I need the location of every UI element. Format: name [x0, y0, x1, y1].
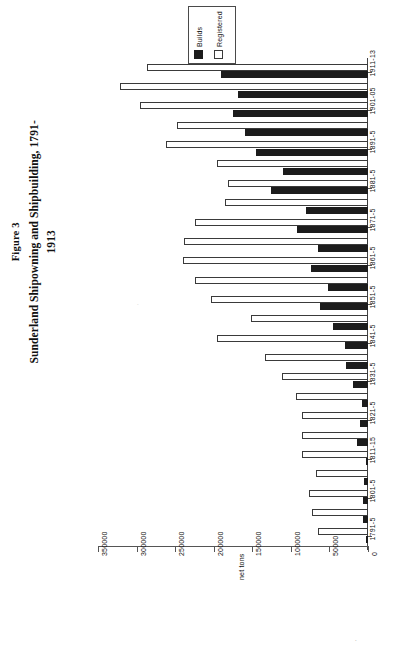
- page-speck: .: [355, 636, 357, 642]
- value-tick-label: 300000: [140, 531, 147, 556]
- value-tick-label: 350000: [101, 531, 108, 556]
- bar-group: 1891-5: [98, 139, 368, 158]
- value-tick-label: 50000: [332, 536, 339, 556]
- figure-title-block: Figure 3 Sunderland Shipowning and Shipb…: [8, 112, 60, 372]
- bar-registered[interactable]: [316, 470, 368, 477]
- bar-group: 1841-5: [98, 333, 368, 352]
- bar-group: [98, 507, 368, 526]
- value-tick: [214, 546, 215, 552]
- bar-builds[interactable]: [256, 149, 368, 156]
- legend-item-registered[interactable]: Registered: [212, 11, 232, 59]
- value-tick: [291, 546, 292, 552]
- bar-registered[interactable]: [147, 64, 368, 71]
- bar-registered[interactable]: [217, 335, 368, 342]
- bar-group: [98, 81, 368, 100]
- category-label: 1911-13: [369, 12, 376, 76]
- value-tick-label: 200000: [217, 531, 224, 556]
- bar-builds[interactable]: [363, 516, 368, 523]
- bar-group: 1911-13: [98, 62, 368, 81]
- bar-builds[interactable]: [320, 303, 368, 310]
- bar-group: [98, 275, 368, 294]
- bar-group: [98, 120, 368, 139]
- bar-builds[interactable]: [221, 71, 368, 78]
- bar-registered[interactable]: [195, 277, 368, 284]
- bar-group: 1791-5: [98, 527, 368, 546]
- bar-registered[interactable]: [265, 354, 368, 361]
- value-tick: [175, 546, 176, 552]
- bar-builds[interactable]: [328, 284, 368, 291]
- bar-registered[interactable]: [296, 393, 369, 400]
- bar-builds[interactable]: [346, 362, 368, 369]
- bar-registered[interactable]: [312, 509, 368, 516]
- legend-label-builds: Builds: [196, 27, 203, 47]
- bar-builds[interactable]: [318, 245, 368, 252]
- legend-item-builds[interactable]: Builds: [192, 11, 212, 59]
- value-tick: [252, 546, 253, 552]
- bar-group: 1831-5: [98, 372, 368, 391]
- bar-group: [98, 391, 368, 410]
- bar-group: [98, 314, 368, 333]
- bar-registered[interactable]: [217, 160, 368, 167]
- legend-label-registered: Registered: [216, 11, 223, 47]
- bar-group: 1901-05: [98, 101, 368, 120]
- bar-group: 1801-5: [98, 488, 368, 507]
- bar-registered[interactable]: [228, 180, 368, 187]
- bar-registered[interactable]: [140, 102, 368, 109]
- bar-builds[interactable]: [353, 381, 368, 388]
- bar-builds[interactable]: [245, 129, 368, 136]
- value-axis-title: net tons: [238, 553, 245, 580]
- bar-group: 1821-5: [98, 410, 368, 429]
- bar-registered[interactable]: [251, 315, 368, 322]
- bar-builds[interactable]: [297, 226, 368, 233]
- bar-registered[interactable]: [195, 219, 368, 226]
- figure-number: Figure 3: [8, 112, 23, 372]
- bar-group: 1881-5: [98, 178, 368, 197]
- bar-builds[interactable]: [345, 342, 368, 349]
- bar-registered[interactable]: [309, 490, 368, 497]
- bar-group: [98, 198, 368, 217]
- bar-registered[interactable]: [282, 373, 368, 380]
- bar-registered[interactable]: [120, 83, 368, 90]
- bar-registered[interactable]: [183, 257, 368, 264]
- bar-registered[interactable]: [177, 122, 368, 129]
- bar-registered[interactable]: [302, 412, 368, 419]
- value-tick-label: 250000: [178, 531, 185, 556]
- bar-builds[interactable]: [364, 478, 368, 485]
- bar-builds[interactable]: [360, 420, 368, 427]
- bar-group: [98, 352, 368, 371]
- bar-builds[interactable]: [283, 168, 368, 175]
- bar-group: 1811-15: [98, 449, 368, 468]
- legend-swatch-registered-icon: [214, 50, 223, 59]
- value-tick: [368, 546, 369, 552]
- bar-builds[interactable]: [271, 187, 368, 194]
- bar-registered[interactable]: [302, 451, 368, 458]
- value-tick-label: 100000: [294, 531, 301, 556]
- bar-builds[interactable]: [333, 323, 368, 330]
- value-axis-line: [98, 546, 368, 547]
- plot-speck: .: [137, 300, 139, 306]
- chart-legend: Builds Registered: [188, 6, 236, 64]
- legend-swatch-builds-icon: [194, 50, 203, 59]
- value-tick: [329, 546, 330, 552]
- value-tick: [137, 546, 138, 552]
- bar-registered[interactable]: [302, 432, 368, 439]
- bar-builds[interactable]: [357, 439, 368, 446]
- bar-builds[interactable]: [238, 91, 368, 98]
- bar-registered[interactable]: [211, 296, 368, 303]
- bar-registered[interactable]: [318, 528, 368, 535]
- bar-builds[interactable]: [306, 207, 368, 214]
- chart-canvas: Figure 3 Sunderland Shipowning and Shipb…: [0, 0, 409, 651]
- value-tick-label: 150000: [255, 531, 262, 556]
- bar-group: [98, 236, 368, 255]
- bar-group: 1861-5: [98, 256, 368, 275]
- bar-group: [98, 159, 368, 178]
- value-tick: [98, 546, 99, 552]
- bar-builds[interactable]: [233, 110, 368, 117]
- bar-registered[interactable]: [225, 199, 368, 206]
- bar-registered[interactable]: [166, 141, 368, 148]
- bar-registered[interactable]: [184, 238, 368, 245]
- bar-builds[interactable]: [311, 265, 368, 272]
- bar-group: 1871-5: [98, 217, 368, 236]
- bar-builds[interactable]: [362, 400, 368, 407]
- value-tick-label: 0: [371, 552, 378, 556]
